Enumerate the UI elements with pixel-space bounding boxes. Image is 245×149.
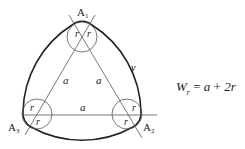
curve-label-gamma: γ	[131, 61, 136, 73]
vertex-label-a2: A2	[143, 121, 155, 135]
vertex-label-a1: A1	[77, 6, 89, 20]
radius-label-a2-bottom: r	[124, 116, 128, 127]
side-label-a-left: a	[63, 74, 69, 86]
formula-equals: =	[190, 79, 204, 94]
side-label-a-right: a	[96, 74, 102, 86]
radius-label-a2-top: r	[132, 102, 136, 113]
formula-2r: 2r	[224, 79, 236, 94]
formula-w: W	[176, 79, 187, 94]
width-formula: Wr = a + 2r	[176, 79, 236, 97]
radius-label-a3-top: r	[30, 102, 34, 113]
radius-label-a1-right: r	[87, 28, 91, 39]
side-label-a-bottom: a	[80, 101, 86, 113]
formula-plus: +	[210, 79, 224, 94]
constant-width-diagram: A1 A2 A3 a a a r r r r r r γ	[0, 0, 245, 149]
vertex-label-a3: A3	[8, 121, 20, 135]
radius-label-a3-bottom: r	[36, 116, 40, 127]
radius-label-a1-left: r	[75, 28, 79, 39]
side-line-a1-a2	[69, 15, 142, 138]
